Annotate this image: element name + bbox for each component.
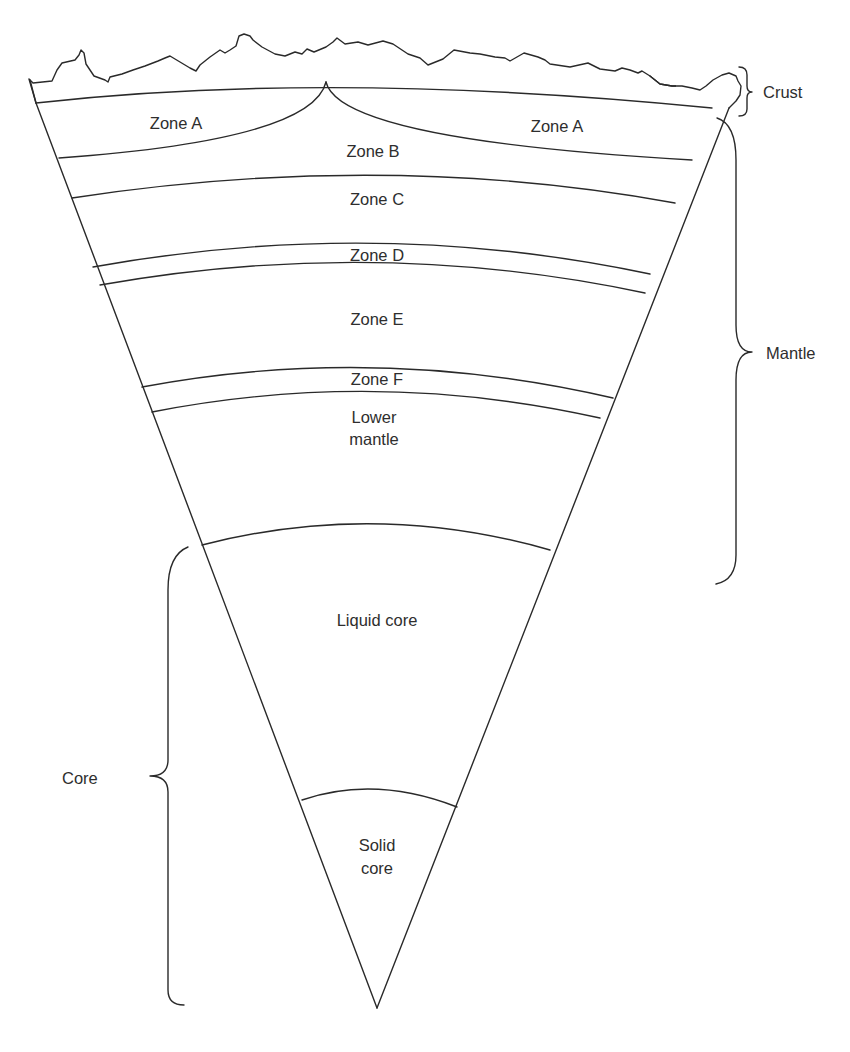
label-core: Core xyxy=(62,769,98,787)
label-zone-c: Zone C xyxy=(350,190,404,208)
label-zone-b: Zone B xyxy=(346,142,399,160)
label-mantle: Mantle xyxy=(766,344,816,362)
label-lower-mantle-line2: mantle xyxy=(349,430,399,448)
earth-structure-diagram: Zone A Zone A Zone B Zone C Zone D Zone … xyxy=(0,0,850,1052)
label-solid-core-line1: Solid xyxy=(359,836,396,854)
core-mantle-boundary xyxy=(202,524,550,550)
core-brace-icon xyxy=(150,547,188,1005)
wedge-right-edge xyxy=(377,108,729,1008)
label-crust: Crust xyxy=(763,83,803,101)
label-zone-e: Zone E xyxy=(350,310,403,328)
crust-base-boundary xyxy=(36,88,712,108)
zone-d-bottom-boundary xyxy=(100,262,645,293)
mantle-brace-icon xyxy=(716,118,752,584)
label-liquid-core: Liquid core xyxy=(337,611,418,629)
label-solid-core-line2: core xyxy=(361,859,393,877)
crust-surface-outline xyxy=(29,34,730,103)
label-zone-a-right: Zone A xyxy=(531,117,583,135)
label-zone-f: Zone F xyxy=(351,370,403,388)
label-lower-mantle-line1: Lower xyxy=(352,408,397,426)
inner-core-boundary xyxy=(302,789,457,807)
label-zone-d: Zone D xyxy=(350,246,404,264)
label-zone-a-left: Zone A xyxy=(150,114,202,132)
